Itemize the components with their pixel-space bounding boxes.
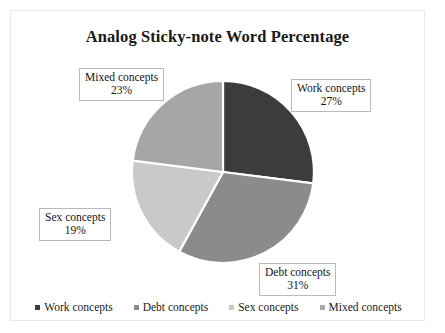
pie-label-sex-concepts: Sex concepts 19% — [39, 208, 111, 241]
legend-item-label: Work concepts — [44, 301, 112, 313]
pie-label-debt-concepts-name: Debt concepts — [265, 266, 330, 279]
chart-title: Analog Sticky-note Word Percentage — [11, 27, 424, 47]
pie-label-sex-concepts-name: Sex concepts — [45, 211, 105, 224]
legend-item[interactable]: Work concepts — [35, 301, 112, 313]
pie-slice[interactable] — [179, 172, 313, 263]
legend-swatch-icon — [229, 305, 234, 310]
pie-chart-svg — [11, 11, 426, 322]
pie-label-sex-concepts-percent: 19% — [45, 224, 105, 237]
pie-label-mixed-concepts: Mixed concepts 23% — [79, 68, 164, 101]
pie-label-work-concepts-name: Work concepts — [297, 82, 365, 95]
legend-item[interactable]: Debt concepts — [134, 301, 208, 313]
legend-item-label: Debt concepts — [143, 301, 208, 313]
pie-label-mixed-concepts-name: Mixed concepts — [85, 71, 158, 84]
pie-label-debt-concepts-percent: 31% — [265, 279, 330, 292]
pie-label-debt-concepts: Debt concepts 31% — [259, 263, 336, 296]
legend-item-label: Mixed concepts — [329, 301, 402, 313]
legend-swatch-icon — [320, 305, 325, 310]
pie-label-mixed-concepts-percent: 23% — [85, 84, 158, 97]
pie-slice[interactable] — [132, 161, 223, 252]
chart-legend: Work conceptsDebt conceptsSex conceptsMi… — [11, 301, 426, 313]
legend-item[interactable]: Sex concepts — [229, 301, 298, 313]
pie-chart-area — [11, 11, 426, 322]
pie-label-work-concepts-percent: 27% — [297, 95, 365, 108]
legend-item[interactable]: Mixed concepts — [320, 301, 402, 313]
pie-slices — [132, 81, 314, 263]
legend-swatch-icon — [134, 305, 139, 310]
legend-swatch-icon — [35, 305, 40, 310]
legend-item-label: Sex concepts — [238, 301, 298, 313]
pie-label-work-concepts: Work concepts 27% — [291, 79, 371, 112]
chart-frame: Analog Sticky-note Word Percentage Mixed… — [10, 10, 425, 321]
